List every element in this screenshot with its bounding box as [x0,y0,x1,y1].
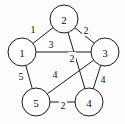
edge-weight-text: 4 [53,69,58,80]
edge-weight-label-2-3: 2 [82,24,90,36]
edge-weight-text: 5 [19,71,24,82]
node-label-1: 1 [19,47,25,59]
edge-weight-text: 2 [84,25,89,36]
graph-node-5[interactable]: 5 [22,88,50,116]
node-label-2: 2 [61,14,67,26]
edge-weight-label-1-3: 3 [47,38,55,50]
edge-weight-text: 1 [31,24,36,35]
edge-weight-label-3-5: 4 [51,68,59,80]
graph-node-1[interactable]: 1 [8,38,36,66]
graph-edge-1-5 [26,65,32,88]
graph-figure: 12324542 12345 [0,0,125,124]
edge-weight-text: 2 [70,53,75,64]
edge-weight-label-2-4: 2 [68,52,76,64]
graph-canvas: 12324542 12345 [0,0,125,124]
edge-weight-text: 4 [101,74,106,85]
node-label-4: 4 [86,97,92,109]
graph-node-2[interactable]: 2 [50,5,78,33]
node-label-5: 5 [33,97,39,109]
edge-weight-label-4-5: 2 [59,99,67,111]
edge-weight-label-1-2: 1 [29,23,37,35]
graph-node-3[interactable]: 3 [91,38,119,66]
graph-node-4[interactable]: 4 [75,88,103,116]
edge-weight-text: 2 [61,100,66,111]
edge-weight-label-3-4: 4 [99,73,107,85]
edge-weight-text: 3 [49,39,54,50]
node-label-3: 3 [102,47,108,59]
edge-weight-label-1-5: 5 [17,70,25,82]
